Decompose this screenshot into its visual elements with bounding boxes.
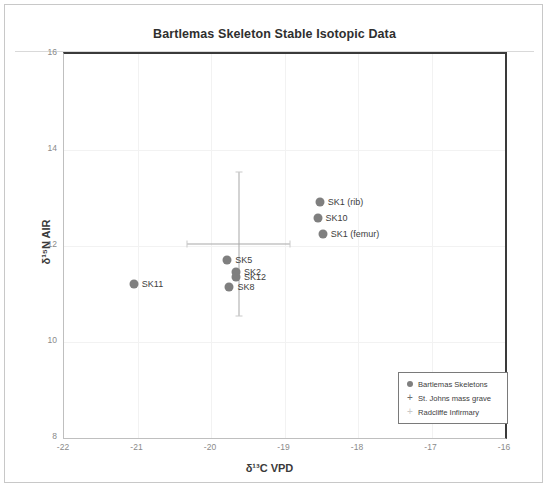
legend-item-bartlemas-skeletons: Bartlemas Skeletons xyxy=(404,377,502,391)
legend-circle-icon xyxy=(404,379,416,389)
data-point[interactable] xyxy=(223,256,232,265)
error-bar-vertical xyxy=(238,172,239,316)
y-axis-tick: 14 xyxy=(37,143,57,153)
data-point[interactable] xyxy=(231,273,240,282)
gridline-horizontal xyxy=(64,246,505,247)
data-point-label: SK8 xyxy=(237,282,254,292)
data-point-label: SK1 (rib) xyxy=(328,197,364,207)
y-axis-tick: 8 xyxy=(37,431,57,441)
data-point-label: SK12 xyxy=(244,272,266,282)
x-axis-tick: -18 xyxy=(351,442,363,452)
data-point-label: SK1 (femur) xyxy=(331,229,380,239)
y-axis-tick: 12 xyxy=(37,239,57,249)
legend-plus-icon: + xyxy=(404,407,416,417)
x-axis-tick: -22 xyxy=(57,442,69,452)
legend-item-radcliffe-infirmary: + Radcliffe Infirmary xyxy=(404,405,502,419)
legend-label: Bartlemas Skeletons xyxy=(418,380,488,389)
y-axis-tick: 10 xyxy=(37,335,57,345)
data-point[interactable] xyxy=(313,214,322,223)
legend-plus-icon: + xyxy=(404,393,416,403)
error-bar-cap xyxy=(235,171,242,172)
legend-label: St. Johns mass grave xyxy=(418,394,491,403)
chart-title: Bartlemas Skeleton Stable Isotopic Data xyxy=(5,27,544,41)
x-axis-tick: -19 xyxy=(277,442,289,452)
gridline-horizontal xyxy=(64,342,505,343)
data-point[interactable] xyxy=(129,280,138,289)
legend-item-st-johns-mass-grave: + St. Johns mass grave xyxy=(404,391,502,405)
y-axis-tick: 16 xyxy=(37,47,57,57)
error-bar-cap xyxy=(290,240,291,247)
x-axis-tick: -16 xyxy=(498,442,510,452)
error-bar-cap xyxy=(187,240,188,247)
x-axis-tick: -21 xyxy=(130,442,142,452)
data-point-label: SK5 xyxy=(235,255,252,265)
data-point-label: SK10 xyxy=(326,213,348,223)
x-axis-label: δ¹³C VPD xyxy=(0,462,539,474)
x-axis-tick: -17 xyxy=(424,442,436,452)
error-bar-cap xyxy=(235,315,242,316)
gridline-horizontal xyxy=(64,150,505,151)
data-point[interactable] xyxy=(225,282,234,291)
chart-legend: Bartlemas Skeletons + St. Johns mass gra… xyxy=(398,372,508,424)
data-point[interactable] xyxy=(318,230,327,239)
data-point[interactable] xyxy=(315,197,324,206)
legend-label: Radcliffe Infirmary xyxy=(418,408,479,417)
data-point-label: SK11 xyxy=(142,279,163,289)
x-axis-tick: -20 xyxy=(204,442,216,452)
